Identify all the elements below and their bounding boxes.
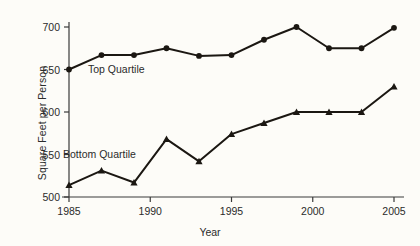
- data-point-marker: [164, 45, 170, 51]
- x-axis-label: Year: [0, 226, 420, 238]
- series-annotation-top: Top Quartile: [88, 63, 145, 75]
- y-tick-label: 550: [42, 149, 60, 161]
- x-tick-label: 1985: [57, 205, 81, 217]
- data-point-marker: [98, 167, 105, 173]
- line-chart: Square Feet per Person 500550600650700 1…: [0, 0, 420, 246]
- data-point-marker: [131, 52, 137, 58]
- y-tick-label: 700: [42, 21, 60, 33]
- x-tick-label: 2000: [301, 205, 325, 217]
- y-axis-ticks: 500550600650700: [42, 21, 69, 203]
- series-bottom-quartile: [65, 83, 397, 188]
- data-point-marker: [163, 136, 170, 142]
- data-point-marker: [196, 53, 202, 59]
- data-point-marker: [229, 52, 235, 58]
- y-tick-label: 600: [42, 106, 60, 118]
- data-point-marker: [294, 24, 300, 30]
- data-point-marker: [390, 83, 397, 89]
- data-point-marker: [359, 45, 365, 51]
- data-point-marker: [66, 67, 72, 73]
- data-point-marker: [391, 25, 397, 31]
- series-annotation-bottom: Bottom Quartile: [63, 148, 136, 160]
- plot-area: 500550600650700 19851990199520002005 Top…: [0, 0, 420, 246]
- data-point-marker: [326, 45, 332, 51]
- data-point-marker: [261, 37, 267, 43]
- x-tick-label: 1995: [220, 205, 244, 217]
- x-tick-label: 2005: [382, 205, 406, 217]
- x-axis-ticks: 19851990199520002005: [57, 197, 406, 217]
- y-tick-label: 650: [42, 64, 60, 76]
- y-tick-label: 500: [42, 191, 60, 203]
- data-series-layer: [65, 24, 397, 188]
- x-tick-label: 1990: [139, 205, 163, 217]
- data-point-marker: [99, 52, 105, 58]
